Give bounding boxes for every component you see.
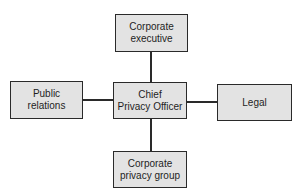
node-public-relations: Public relations — [10, 81, 83, 119]
node-corporate-executive: Corporate executive — [115, 14, 188, 52]
connector-center-bottom — [150, 119, 152, 151]
node-chief-privacy-officer: Chief Privacy Officer — [113, 82, 187, 119]
node-label-line2: relations — [28, 100, 66, 112]
node-legal: Legal — [217, 84, 292, 121]
node-label-line2: executive — [129, 33, 173, 45]
node-label-line1: Chief — [118, 89, 183, 101]
connector-center-right — [187, 101, 217, 103]
node-corporate-privacy-group: Corporate privacy group — [113, 151, 187, 188]
org-chart-diagram: Corporate executive Public relations Chi… — [0, 0, 301, 194]
node-label-line2: privacy group — [120, 170, 180, 182]
node-label-line1: Corporate — [129, 21, 173, 33]
node-label-line1: Corporate — [120, 158, 180, 170]
connector-center-left — [83, 99, 113, 101]
connector-center-top — [150, 51, 152, 82]
node-label: Legal — [242, 97, 266, 109]
node-label-line1: Public — [28, 88, 66, 100]
node-label-line2: Privacy Officer — [118, 101, 183, 113]
